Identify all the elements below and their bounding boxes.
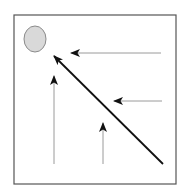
arrow-diagonal-icon	[54, 56, 163, 164]
arrows-group	[54, 53, 163, 164]
ellipse-target-icon	[24, 26, 46, 52]
diagram-canvas	[0, 0, 186, 191]
